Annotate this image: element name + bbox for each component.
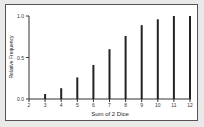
x-tick-label: 11: [171, 102, 176, 108]
bar-9: [141, 25, 143, 99]
x-tick-label: 2: [28, 102, 31, 108]
y-tick-label: 1.0: [17, 13, 24, 19]
labels: Sum of 2 Dice Relative Frequency: [8, 35, 130, 117]
x-tick-label: 7: [108, 102, 111, 108]
relative-frequency-bar-chart: 0.00.51.023456789101112 Sum of 2 Dice Re…: [0, 0, 204, 127]
bar-10: [157, 19, 159, 99]
x-tick-label: 4: [60, 102, 63, 108]
bar-8: [125, 36, 127, 99]
bar-11: [173, 16, 175, 99]
x-tick-label: 6: [92, 102, 95, 108]
x-tick-label: 9: [140, 102, 143, 108]
x-tick-label: 3: [44, 102, 47, 108]
x-tick-label: 5: [76, 102, 79, 108]
bar-5: [76, 77, 78, 99]
y-axis-title: Relative Frequency: [8, 35, 14, 79]
bars: [44, 16, 191, 99]
y-tick-label: 0.0: [17, 96, 24, 102]
x-tick-label: 10: [155, 102, 161, 108]
bar-12: [189, 16, 191, 99]
bar-6: [92, 65, 94, 99]
bar-4: [60, 88, 62, 99]
x-axis-title: Sum of 2 Dice: [91, 111, 129, 117]
y-tick-label: 0.5: [17, 55, 24, 61]
x-tick-label: 12: [187, 102, 193, 108]
bar-3: [44, 94, 46, 99]
bar-7: [109, 49, 111, 99]
x-tick-label: 8: [124, 102, 127, 108]
axes: 0.00.51.023456789101112: [17, 13, 193, 108]
